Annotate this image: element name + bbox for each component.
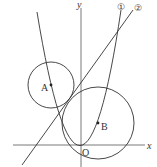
origin-label: O (82, 147, 89, 158)
x-axis-label: x (146, 140, 152, 151)
curve-2-label: ② (134, 3, 142, 13)
y-axis-label: y (76, 0, 82, 10)
curve-1-label: ① (117, 2, 125, 12)
point-b (97, 122, 100, 125)
point-a-label: A (41, 82, 49, 93)
parabola-1 (37, 10, 121, 146)
diagram-canvas: A B O x y ① ② (0, 0, 157, 167)
line-2 (22, 10, 133, 165)
point-b-label: B (101, 121, 108, 132)
point-a (50, 84, 53, 87)
